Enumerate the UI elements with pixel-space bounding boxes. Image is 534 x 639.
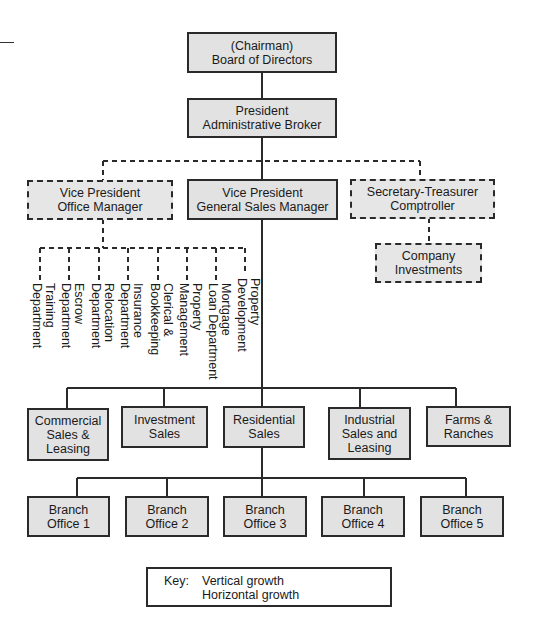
dept-clerical-bookkeeping: Clerical & Bookkeeping bbox=[148, 283, 174, 355]
residential-sales-box: Residential Sales bbox=[223, 406, 305, 448]
commercial-sales-box: Commercial Sales & Leasing bbox=[27, 408, 109, 461]
secretary-treasurer-box: Secretary-Treasurer Comptroller bbox=[350, 179, 495, 219]
industrial-sales-box: Industrial Sales and Leasing bbox=[328, 407, 411, 460]
vp-general-sales-manager-box: Vice President General Sales Manager bbox=[187, 179, 338, 220]
vp-office-manager-box: Vice President Office Manager bbox=[27, 180, 173, 220]
branch-office-4-box: Branch Office 4 bbox=[321, 496, 405, 537]
dept-training: Training Department bbox=[30, 283, 56, 348]
dept-relocation: Relocation Department bbox=[89, 283, 115, 348]
branch-office-5-box: Branch Office 5 bbox=[420, 496, 504, 537]
president-box: President Administrative Broker bbox=[187, 98, 337, 138]
dept-property-management: Property Management bbox=[177, 283, 203, 356]
key-vertical-label: Vertical growth bbox=[202, 574, 284, 588]
board-of-directors-box: (Chairman) Board of Directors bbox=[187, 32, 337, 73]
dept-property-development: Property Development bbox=[235, 278, 261, 352]
investment-sales-box: Investment Sales bbox=[121, 406, 208, 448]
farms-ranches-box: Farms & Ranches bbox=[426, 406, 511, 447]
dept-insurance: Insurance Department bbox=[118, 283, 144, 348]
dept-escrow: Escrow Department bbox=[59, 283, 85, 348]
key-title: Key: bbox=[164, 574, 189, 588]
dept-mortgage-loan: Mortgage Loan Department bbox=[206, 283, 232, 380]
org-chart: (Chairman) Board of Directors President … bbox=[0, 0, 534, 639]
legend-key: Key: Vertical growth Horizontal growth bbox=[146, 567, 392, 607]
branch-office-2-box: Branch Office 2 bbox=[125, 496, 209, 537]
branch-office-3-box: Branch Office 3 bbox=[223, 496, 307, 537]
key-horizontal-label: Horizontal growth bbox=[202, 588, 299, 602]
branch-office-1-box: Branch Office 1 bbox=[27, 496, 110, 537]
company-investments-box: Company Investments bbox=[375, 243, 482, 283]
